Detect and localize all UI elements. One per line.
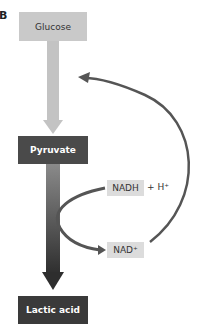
nad-label: NAD⁺: [113, 245, 138, 255]
glucose-label: Glucose: [35, 22, 71, 32]
nadh-to-nad-curve: [57, 188, 105, 250]
lactic-acid-node: Lactic acid: [18, 296, 88, 324]
recycle-arrowhead: [78, 72, 90, 83]
nadh-node: NADH: [107, 180, 144, 196]
nadh-label: NADH: [112, 183, 139, 193]
glucose-node: Glucose: [19, 12, 87, 41]
pyruvate-node: Pyruvate: [18, 136, 88, 164]
glucose-to-pyruvate-arrow: [43, 41, 63, 134]
nad-arrowhead: [98, 245, 106, 255]
lactic-acid-label: Lactic acid: [26, 305, 80, 315]
nad-recycle-curve: [84, 78, 189, 242]
hplus-label: + H⁺: [147, 182, 169, 192]
pyruvate-label: Pyruvate: [30, 145, 76, 155]
pathway-arrows: [0, 0, 201, 336]
nad-node: NAD⁺: [107, 242, 144, 258]
